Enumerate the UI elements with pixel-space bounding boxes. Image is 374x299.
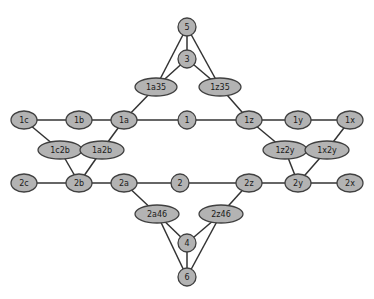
graph-node[interactable]: 2 (171, 174, 189, 192)
graph-node[interactable]: 2z (236, 174, 262, 192)
node-ellipse[interactable] (135, 205, 179, 223)
node-ellipse[interactable] (11, 174, 37, 192)
graph-node[interactable]: 1a2b (80, 141, 124, 159)
graph-node[interactable]: 1x2y (305, 141, 349, 159)
graph-node[interactable]: 1y (285, 111, 311, 129)
graph-node[interactable]: 2a (111, 174, 137, 192)
graph-node[interactable]: 1z35 (199, 78, 241, 96)
graph-node[interactable]: 5 (178, 18, 196, 36)
graph-node[interactable]: 1x (337, 111, 363, 129)
diagram-canvas: 531a351z351c1b1a11z1y1x1c2b1a2b1z2y1x2y2… (0, 0, 374, 299)
node-ellipse[interactable] (285, 174, 311, 192)
graph-node[interactable]: 4 (178, 234, 196, 252)
node-ellipse[interactable] (66, 174, 92, 192)
node-ellipse[interactable] (199, 205, 243, 223)
graph-node[interactable]: 1z (236, 111, 262, 129)
nodes-layer: 531a351z351c1b1a11z1y1x1c2b1a2b1z2y1x2y2… (11, 18, 363, 286)
node-ellipse[interactable] (66, 111, 92, 129)
node-circle[interactable] (178, 234, 196, 252)
node-ellipse[interactable] (199, 78, 241, 96)
node-circle[interactable] (171, 174, 189, 192)
node-ellipse[interactable] (11, 111, 37, 129)
graph-node[interactable]: 3 (178, 50, 196, 68)
node-ellipse[interactable] (135, 78, 177, 96)
node-circle[interactable] (178, 111, 196, 129)
graph-node[interactable]: 2c (11, 174, 37, 192)
graph-node[interactable]: 1b (66, 111, 92, 129)
node-ellipse[interactable] (111, 111, 137, 129)
node-ellipse[interactable] (337, 174, 363, 192)
graph-svg: 531a351z351c1b1a11z1y1x1c2b1a2b1z2y1x2y2… (0, 0, 374, 299)
node-ellipse[interactable] (38, 141, 82, 159)
node-ellipse[interactable] (305, 141, 349, 159)
graph-node[interactable]: 2y (285, 174, 311, 192)
node-ellipse[interactable] (285, 111, 311, 129)
node-circle[interactable] (178, 18, 196, 36)
graph-node[interactable]: 2a46 (135, 205, 179, 223)
graph-node[interactable]: 2z46 (199, 205, 243, 223)
node-ellipse[interactable] (111, 174, 137, 192)
graph-node[interactable]: 2x (337, 174, 363, 192)
node-ellipse[interactable] (263, 141, 307, 159)
graph-node[interactable]: 6 (178, 268, 196, 286)
node-circle[interactable] (178, 50, 196, 68)
node-ellipse[interactable] (236, 111, 262, 129)
graph-node[interactable]: 1c2b (38, 141, 82, 159)
graph-node[interactable]: 1a (111, 111, 137, 129)
graph-node[interactable]: 1 (178, 111, 196, 129)
node-circle[interactable] (178, 268, 196, 286)
node-ellipse[interactable] (80, 141, 124, 159)
graph-node[interactable]: 1z2y (263, 141, 307, 159)
graph-node[interactable]: 1c (11, 111, 37, 129)
graph-node[interactable]: 1a35 (135, 78, 177, 96)
graph-node[interactable]: 2b (66, 174, 92, 192)
node-ellipse[interactable] (337, 111, 363, 129)
node-ellipse[interactable] (236, 174, 262, 192)
